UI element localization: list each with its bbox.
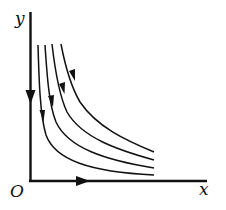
y-axis-arrow-icon [26, 90, 36, 104]
origin-label: O [10, 181, 24, 201]
y-axis-label: y [14, 8, 25, 28]
trajectory-curve-4 [61, 44, 154, 152]
trajectory-curve-3 [52, 44, 154, 160]
x-axis-label: x [199, 179, 209, 199]
y-axis [26, 12, 36, 182]
trajectory-curve-2 [45, 45, 154, 168]
x-axis-arrow-icon [76, 176, 90, 186]
phase-diagram: y O x [0, 0, 226, 210]
trajectory-curves [38, 44, 154, 175]
x-axis [29, 176, 207, 186]
